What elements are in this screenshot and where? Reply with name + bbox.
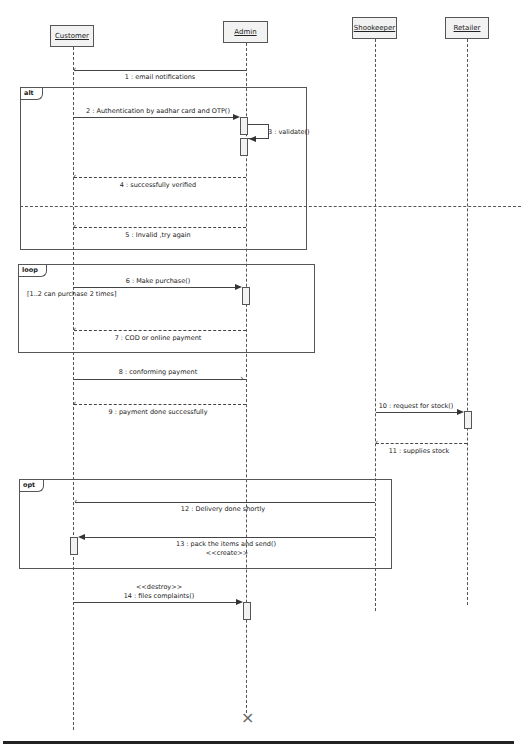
message-1-line: [74, 70, 246, 71]
message-11-label: 11 : supplies stock: [389, 447, 450, 455]
message-2-line: [73, 117, 233, 118]
message-13-stereotype: <<create>>: [206, 549, 248, 557]
activation-admin-2: [240, 117, 248, 135]
destroy-x-icon: ×: [241, 710, 254, 726]
message-8-label: 8 : conforming payment: [119, 368, 197, 376]
message-4-label: 4 : successfully verified: [120, 181, 196, 189]
message-2-label: 2 : Authentication by aadhar card and OT…: [86, 107, 230, 115]
filled-arrowhead-right-icon: [457, 409, 464, 415]
lifeline-customer-head: Customer: [50, 25, 94, 47]
filled-arrowhead-left-icon: [249, 136, 256, 142]
lifeline-retailer: [467, 39, 468, 605]
open-arrowhead-left-icon: ‹: [73, 399, 77, 408]
message-13-line: [85, 537, 375, 538]
activation-admin-6: [242, 287, 250, 305]
open-arrowhead-left-icon: ‹: [73, 325, 77, 334]
filled-arrowhead-right-icon: [235, 284, 242, 290]
message-5-line: [74, 227, 246, 228]
message-7-label: 7 : COD or online payment: [115, 334, 202, 342]
message-12-line: [75, 502, 375, 503]
message-6-line: [73, 287, 235, 288]
message-4-line: [74, 177, 246, 178]
filled-arrowhead-right-icon: [236, 599, 243, 605]
message-8-line: [74, 379, 246, 380]
lifeline-admin-head: Admin: [223, 21, 268, 43]
open-arrowhead-right-icon: ›: [240, 374, 244, 383]
activation-admin-3: [240, 138, 248, 156]
opt-fragment-tag: opt: [20, 480, 44, 492]
lifeline-retailer-head: Retailer: [445, 17, 489, 39]
activation-admin-14: [243, 602, 251, 620]
bottom-rule: [3, 741, 514, 744]
message-14-label: 14 : files complaints(): [124, 592, 195, 600]
message-12-label: 12 : Delivery done shortly: [181, 505, 265, 513]
message-5-label: 5 : Invalid ,try again: [125, 231, 190, 239]
open-arrowhead-left-icon: ‹: [74, 497, 78, 506]
filled-arrowhead-right-icon: [233, 114, 240, 120]
message-6-label: 6 : Make purchase(): [126, 277, 191, 285]
message-14-line: [74, 602, 236, 603]
alt-fragment-tag: alt: [21, 88, 43, 100]
message-14-stereotype: <<destroy>>: [136, 583, 182, 591]
message-11-line: [376, 443, 467, 444]
lifeline-shookeeper-head: Shookeeper: [352, 17, 397, 39]
activation-customer-13: [70, 537, 78, 555]
message-9-label: 9 : payment done successfully: [108, 408, 207, 416]
message-10-line: [376, 412, 457, 413]
activation-retailer-10: [464, 411, 472, 429]
message-7-line: [74, 330, 246, 331]
alt-operand-divider: [20, 206, 521, 207]
message-3-label: 3 : validate(): [268, 128, 310, 136]
open-arrowhead-left-icon: ‹: [73, 222, 77, 231]
message-9-line: [74, 404, 246, 405]
loop-guard: [1..2 can purchase 2 times]: [27, 290, 116, 298]
message-13-label: 13 : pack the items and send(): [176, 540, 276, 548]
filled-arrowhead-left-icon: [78, 534, 85, 540]
message-1-label: 1 : email notifications: [125, 73, 195, 81]
open-arrowhead-left-icon: ‹: [73, 172, 77, 181]
loop-fragment-tag: loop: [19, 265, 47, 277]
message-10-label: 10 : request for stock(): [379, 402, 454, 410]
open-arrowhead-left-icon: ‹: [73, 65, 77, 74]
open-arrowhead-left-icon: ‹: [375, 438, 379, 447]
